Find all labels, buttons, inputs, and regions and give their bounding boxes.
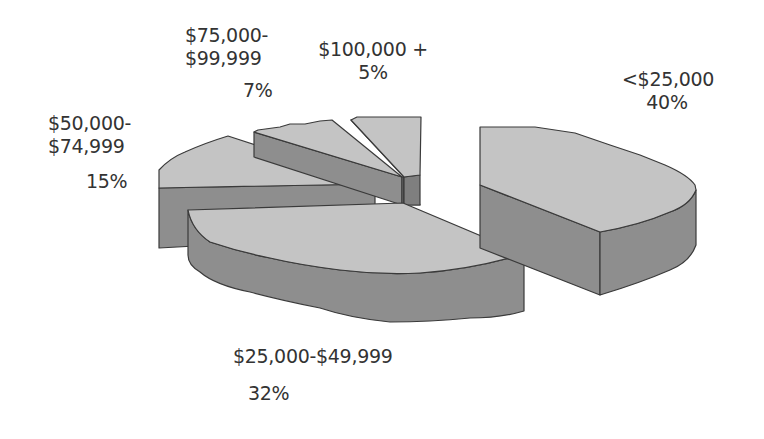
- label-line1: $50,000-: [48, 112, 158, 135]
- slice-25000-49999: [188, 203, 524, 322]
- label-line1: $25,000-$49,999: [233, 345, 433, 368]
- label-pct: 7%: [185, 79, 295, 102]
- label-under-25000: <$25,000 40%: [622, 68, 712, 114]
- label-25000-49999: $25,000-$49,999 32%: [233, 345, 433, 405]
- label-line1: $75,000-: [185, 24, 295, 47]
- label-line2: $74,999: [48, 135, 158, 158]
- label-75000-99999: $75,000- $99,999 7%: [185, 24, 295, 102]
- label-50000-74999: $50,000- $74,999 15%: [48, 112, 158, 193]
- label-pct: 32%: [233, 382, 433, 405]
- label-line1: $100,000 +: [318, 38, 428, 61]
- label-100000-plus: $100,000 + 5%: [318, 38, 428, 84]
- label-pct: 5%: [318, 61, 428, 84]
- label-line1: <$25,000: [622, 68, 712, 91]
- label-pct: 40%: [622, 91, 712, 114]
- label-pct: 15%: [48, 170, 158, 193]
- label-line2: $99,999: [185, 47, 295, 70]
